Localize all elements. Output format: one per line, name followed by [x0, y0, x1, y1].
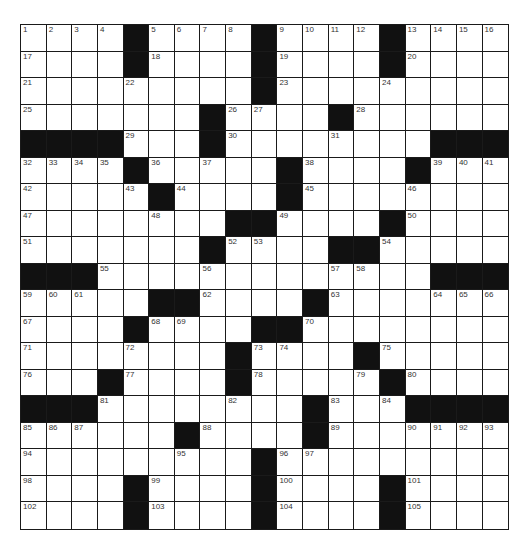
grid-cell[interactable] [354, 423, 380, 450]
grid-cell[interactable] [354, 396, 380, 423]
grid-cell[interactable]: 32 [21, 158, 47, 185]
grid-cell[interactable]: 23 [277, 78, 303, 105]
grid-cell[interactable] [98, 290, 124, 317]
grid-cell[interactable] [354, 502, 380, 529]
grid-cell[interactable] [431, 211, 457, 238]
grid-cell[interactable] [47, 237, 73, 264]
grid-cell[interactable] [457, 343, 483, 370]
grid-cell[interactable]: 47 [21, 211, 47, 238]
grid-cell[interactable] [354, 158, 380, 185]
grid-cell[interactable] [72, 52, 98, 79]
grid-cell[interactable] [406, 449, 432, 476]
grid-cell[interactable] [329, 184, 355, 211]
grid-cell[interactable]: 37 [200, 158, 226, 185]
grid-cell[interactable]: 60 [47, 290, 73, 317]
grid-cell[interactable] [98, 237, 124, 264]
grid-cell[interactable] [329, 449, 355, 476]
grid-cell[interactable] [175, 370, 201, 397]
grid-cell[interactable]: 3 [72, 25, 98, 52]
grid-cell[interactable]: 104 [277, 502, 303, 529]
grid-cell[interactable] [47, 449, 73, 476]
grid-cell[interactable] [72, 105, 98, 132]
grid-cell[interactable] [226, 502, 252, 529]
grid-cell[interactable] [431, 78, 457, 105]
grid-cell[interactable] [380, 264, 406, 291]
grid-cell[interactable] [124, 105, 150, 132]
grid-cell[interactable] [406, 78, 432, 105]
grid-cell[interactable]: 68 [149, 317, 175, 344]
grid-cell[interactable] [226, 317, 252, 344]
grid-cell[interactable] [124, 449, 150, 476]
grid-cell[interactable]: 12 [354, 25, 380, 52]
grid-cell[interactable]: 59 [21, 290, 47, 317]
grid-cell[interactable] [431, 502, 457, 529]
grid-cell[interactable] [457, 211, 483, 238]
grid-cell[interactable]: 96 [277, 449, 303, 476]
grid-cell[interactable] [98, 105, 124, 132]
grid-cell[interactable] [175, 158, 201, 185]
grid-cell[interactable]: 61 [72, 290, 98, 317]
grid-cell[interactable] [303, 211, 329, 238]
grid-cell[interactable] [149, 237, 175, 264]
grid-cell[interactable] [431, 237, 457, 264]
grid-cell[interactable]: 26 [226, 105, 252, 132]
grid-cell[interactable] [149, 343, 175, 370]
grid-cell[interactable]: 62 [200, 290, 226, 317]
grid-cell[interactable]: 11 [329, 25, 355, 52]
grid-cell[interactable]: 57 [329, 264, 355, 291]
grid-cell[interactable]: 67 [21, 317, 47, 344]
grid-cell[interactable] [457, 105, 483, 132]
grid-cell[interactable]: 36 [149, 158, 175, 185]
grid-cell[interactable] [406, 264, 432, 291]
grid-cell[interactable] [200, 370, 226, 397]
grid-cell[interactable] [175, 131, 201, 158]
grid-cell[interactable]: 99 [149, 476, 175, 503]
grid-cell[interactable]: 10 [303, 25, 329, 52]
grid-cell[interactable] [175, 52, 201, 79]
grid-cell[interactable] [47, 502, 73, 529]
grid-cell[interactable] [98, 184, 124, 211]
grid-cell[interactable] [98, 343, 124, 370]
grid-cell[interactable] [47, 52, 73, 79]
grid-cell[interactable]: 1 [21, 25, 47, 52]
grid-cell[interactable] [149, 131, 175, 158]
grid-cell[interactable] [72, 237, 98, 264]
grid-cell[interactable] [277, 105, 303, 132]
grid-cell[interactable]: 41 [483, 158, 509, 185]
grid-cell[interactable]: 53 [252, 237, 278, 264]
grid-cell[interactable] [47, 184, 73, 211]
grid-cell[interactable] [431, 52, 457, 79]
grid-cell[interactable] [98, 476, 124, 503]
grid-cell[interactable] [98, 423, 124, 450]
grid-cell[interactable] [303, 105, 329, 132]
grid-cell[interactable] [303, 52, 329, 79]
grid-cell[interactable] [72, 317, 98, 344]
grid-cell[interactable] [47, 370, 73, 397]
grid-cell[interactable]: 65 [457, 290, 483, 317]
grid-cell[interactable]: 51 [21, 237, 47, 264]
grid-cell[interactable] [354, 131, 380, 158]
grid-cell[interactable] [354, 317, 380, 344]
grid-cell[interactable]: 30 [226, 131, 252, 158]
grid-cell[interactable]: 80 [406, 370, 432, 397]
grid-cell[interactable] [226, 423, 252, 450]
grid-cell[interactable]: 76 [21, 370, 47, 397]
grid-cell[interactable]: 7 [200, 25, 226, 52]
grid-cell[interactable] [252, 158, 278, 185]
grid-cell[interactable] [380, 184, 406, 211]
grid-cell[interactable]: 71 [21, 343, 47, 370]
grid-cell[interactable]: 66 [483, 290, 509, 317]
grid-cell[interactable] [406, 317, 432, 344]
grid-cell[interactable] [47, 78, 73, 105]
grid-cell[interactable] [354, 211, 380, 238]
grid-cell[interactable] [252, 423, 278, 450]
grid-cell[interactable]: 43 [124, 184, 150, 211]
grid-cell[interactable] [457, 317, 483, 344]
grid-cell[interactable] [329, 158, 355, 185]
grid-cell[interactable]: 40 [457, 158, 483, 185]
grid-cell[interactable] [483, 317, 509, 344]
grid-cell[interactable] [200, 184, 226, 211]
grid-cell[interactable] [175, 211, 201, 238]
grid-cell[interactable]: 58 [354, 264, 380, 291]
grid-cell[interactable]: 63 [329, 290, 355, 317]
